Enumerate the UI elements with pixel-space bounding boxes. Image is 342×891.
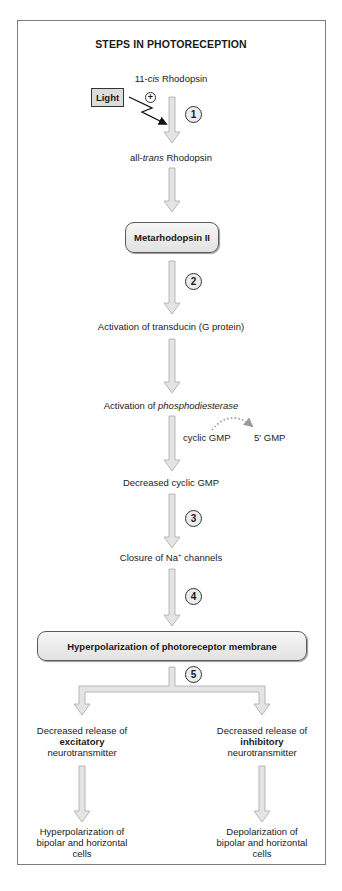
right-branch-outcome: Depolarization of bipolar and horizontal… [187, 826, 337, 859]
arrow-step-1 [164, 97, 180, 143]
right-branch-neurotransmitter: Decreased release of inhibitory neurotra… [187, 725, 337, 758]
branch-connector-step-5 [74, 667, 270, 715]
light-stimulus-box: Light [91, 88, 124, 107]
step-4-badge: 4 [185, 588, 202, 605]
plus-sign-icon: + [145, 92, 156, 103]
node-all-trans-rhodopsin: all-trans Rhodopsin [0, 152, 342, 163]
arrow-pde-to-cgmp [164, 416, 180, 471]
left-branch-outcome: Hyperpolarization of bipolar and horizon… [7, 826, 157, 859]
five-prime-gmp-label: 5' GMP [254, 432, 285, 443]
diagram-title: STEPS IN PHOTORECEPTION [0, 38, 342, 50]
arrow-step-2 [164, 261, 180, 314]
inhibitory-label: inhibitory [187, 736, 337, 747]
node-decreased-cgmp: Decreased cyclic GMP [0, 477, 342, 488]
arrow-left-outcome [74, 766, 90, 822]
node-metarhodopsin-box: Metarhodopsin II [125, 222, 219, 253]
cyclic-gmp-label: cyclic GMP [183, 432, 231, 443]
cgmp-conversion-arc [212, 418, 252, 430]
node-na-channel-closure: Closure of Na+ channels [0, 552, 342, 563]
arrow-alltrans-to-meta [164, 168, 180, 212]
arrow-right-outcome [254, 766, 270, 822]
step-1-badge: 1 [185, 106, 202, 123]
arrow-transducin-to-pde [164, 339, 180, 393]
node-phosphodiesterase-activation: Activation of phosphodiesterase [0, 400, 342, 411]
node-11-cis-rhodopsin: 11-cis Rhodopsin [0, 73, 342, 84]
node-transducin-activation: Activation of transducin (G protein) [0, 321, 342, 332]
light-label: Light [96, 92, 119, 103]
step-3-badge: 3 [185, 510, 202, 527]
node-hyperpolarization-box: Hyperpolarization of photoreceptor membr… [37, 631, 307, 661]
arrow-step-3 [164, 494, 180, 548]
step-5-badge: 5 [185, 666, 202, 683]
arrow-step-4 [164, 569, 180, 626]
excitatory-label: excitatory [7, 736, 157, 747]
left-branch-neurotransmitter: Decreased release of excitatory neurotra… [7, 725, 157, 758]
step-2-badge: 2 [185, 273, 202, 290]
